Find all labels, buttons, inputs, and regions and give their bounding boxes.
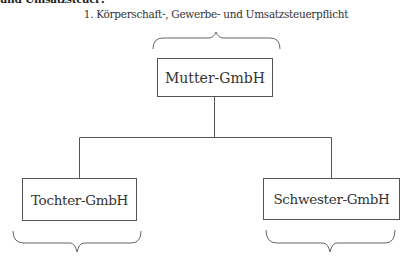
node-mutter-gmbh: Mutter-GmbH <box>157 58 273 97</box>
child-bottom-brace <box>13 231 141 252</box>
node-label: Schwester-GmbH <box>273 191 389 207</box>
node-schwester-gmbh: Schwester-GmbH <box>263 178 400 220</box>
node-tochter-gmbh: Tochter-GmbH <box>22 178 137 221</box>
node-label: Tochter-GmbH <box>31 192 128 208</box>
org-diagram: und Umsatzsteuer: 1. Körperschaft-, Gewe… <box>0 0 414 264</box>
connector-layer <box>0 0 414 264</box>
sibling-bottom-brace <box>266 230 395 252</box>
top-brace <box>153 32 280 49</box>
node-label: Mutter-GmbH <box>165 70 265 86</box>
